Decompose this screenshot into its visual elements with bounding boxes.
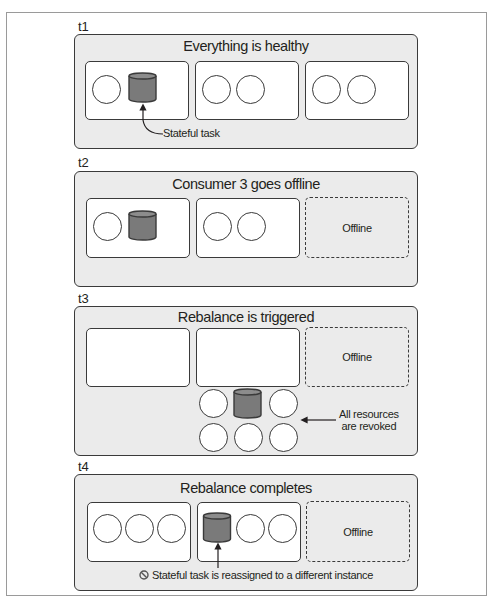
offline-label: Offline	[342, 222, 372, 234]
task-circle	[268, 514, 297, 543]
task-circle	[312, 75, 341, 104]
task-circle	[157, 514, 186, 543]
revoked-annotation-line2: are revoked	[339, 420, 399, 432]
stage-title: Everything is healthy	[75, 38, 417, 54]
revoked-task-circle	[269, 423, 298, 452]
revoked-annotation: All resources are revoked	[339, 408, 399, 432]
revoked-task-circle	[234, 423, 263, 452]
task-circle	[93, 514, 122, 543]
revoked-task-circle	[269, 389, 298, 418]
consumer-3-offline: Offline	[305, 327, 409, 387]
stage-label-t1: t1	[78, 20, 89, 34]
task-circle	[125, 514, 154, 543]
revoked-annotation-line1: All resources	[339, 408, 399, 420]
offline-label: Offline	[342, 351, 372, 363]
stage-title: Consumer 3 goes offline	[75, 176, 417, 192]
consumer-3-offline: Offline	[305, 197, 409, 258]
task-circle	[236, 75, 265, 104]
revoked-stateful-task-cylinder-icon	[233, 388, 262, 419]
revoked-task-circle	[199, 423, 228, 452]
task-circle	[93, 212, 122, 241]
stateful-task-annotation: Stateful task	[163, 127, 220, 139]
reassign-annotation-text: Stateful task is reassigned to a differe…	[152, 569, 373, 581]
stage-title: Rebalance is triggered	[75, 309, 417, 325]
task-circle	[236, 514, 265, 543]
task-circle	[202, 75, 231, 104]
task-circle	[92, 75, 121, 104]
stateful-task-cylinder-icon	[128, 210, 157, 241]
offline-label: Offline	[343, 526, 373, 538]
task-circle	[237, 212, 266, 241]
stage-label-t3: t3	[78, 292, 89, 306]
stage-label-t2: t2	[78, 156, 89, 170]
reassign-annotation: Stateful task is reassigned to a differe…	[139, 569, 373, 581]
stateful-task-cylinder-icon	[128, 72, 157, 103]
prohibited-icon	[139, 570, 149, 580]
revoked-task-circle	[199, 389, 228, 418]
consumer-1	[86, 328, 190, 387]
stage-label-t4: t4	[78, 460, 89, 474]
task-circle	[347, 75, 376, 104]
stage-title: Rebalance completes	[75, 480, 417, 496]
consumer-2	[196, 328, 300, 387]
task-circle	[203, 212, 232, 241]
consumer-3-offline: Offline	[306, 501, 410, 562]
stateful-task-cylinder-icon	[202, 512, 232, 543]
